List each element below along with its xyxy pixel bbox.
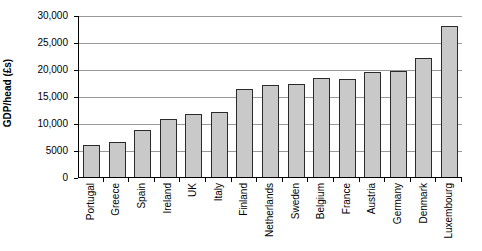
- x-tick-label-belgium: Belgium: [316, 183, 326, 219]
- x-label-cell: Ireland: [155, 183, 181, 249]
- bar-spain[interactable]: [134, 130, 151, 178]
- bar-slot: [385, 16, 411, 178]
- x-tick-mark: [78, 178, 104, 182]
- bar-slot: [258, 16, 284, 178]
- x-label-cell: UK: [180, 183, 206, 249]
- bar-netherlands[interactable]: [262, 85, 279, 178]
- bar-series: [79, 16, 462, 178]
- x-tick-mark: [411, 178, 437, 182]
- x-label-cell: Austria: [360, 183, 386, 249]
- plot-area: [78, 16, 462, 178]
- x-tick-label-austria: Austria: [367, 183, 377, 214]
- x-tick-mark: [232, 178, 258, 182]
- bar-slot: [283, 16, 309, 178]
- x-tick-label-spain: Spain: [137, 183, 147, 209]
- bar-slot: [334, 16, 360, 178]
- x-tick-mark: [129, 178, 155, 182]
- bar-slot: [181, 16, 207, 178]
- y-tick-label-20000: 20,000: [0, 65, 68, 75]
- x-label-cell: Netherlands: [257, 183, 283, 249]
- x-tick-label-ireland: Ireland: [163, 183, 173, 214]
- x-label-cell: Sweden: [283, 183, 309, 249]
- x-tick-label-finland: Finland: [239, 183, 249, 216]
- x-tick-mark: [334, 178, 360, 182]
- bar-slot: [156, 16, 182, 178]
- y-tick-label-5000: 5000: [0, 146, 68, 156]
- x-label-cell: Greece: [104, 183, 130, 249]
- bar-sweden[interactable]: [288, 84, 305, 178]
- x-label-cell: France: [334, 183, 360, 249]
- bar-denmark[interactable]: [415, 58, 432, 178]
- x-tick-label-portugal: Portugal: [86, 183, 96, 220]
- x-label-cell: Portugal: [78, 183, 104, 249]
- x-tick-label-italy: Italy: [214, 183, 224, 201]
- bar-luxembourg[interactable]: [441, 26, 458, 178]
- bar-slot: [130, 16, 156, 178]
- bar-greece[interactable]: [109, 142, 126, 178]
- bar-finland[interactable]: [236, 89, 253, 178]
- bar-uk[interactable]: [185, 114, 202, 178]
- bar-slot: [436, 16, 462, 178]
- bar-slot: [309, 16, 335, 178]
- bar-slot: [207, 16, 233, 178]
- bar-ireland[interactable]: [160, 119, 177, 178]
- x-label-cell: Germany: [385, 183, 411, 249]
- y-tick-label-15000: 15,000: [0, 92, 68, 102]
- bar-italy[interactable]: [211, 112, 228, 178]
- x-tick-mark: [436, 178, 462, 182]
- x-tick-label-sweden: Sweden: [291, 183, 301, 219]
- y-axis-tick-labels: 0500010,00015,00020,00025,00030,000: [0, 16, 74, 178]
- bar-belgium[interactable]: [313, 78, 330, 178]
- bar-slot: [411, 16, 437, 178]
- y-tick-label-0: 0: [0, 173, 68, 183]
- x-label-cell: Spain: [129, 183, 155, 249]
- x-tick-label-greece: Greece: [111, 183, 121, 216]
- x-axis-tick-marks: [78, 178, 462, 182]
- x-tick-mark: [283, 178, 309, 182]
- x-tick-label-denmark: Denmark: [419, 183, 429, 224]
- x-tick-label-uk: UK: [188, 183, 198, 197]
- x-label-cell: Denmark: [411, 183, 437, 249]
- bar-slot: [232, 16, 258, 178]
- x-tick-mark: [385, 178, 411, 182]
- bar-slot: [360, 16, 386, 178]
- x-tick-mark: [155, 178, 181, 182]
- x-tick-label-luxembourg: Luxembourg: [444, 183, 454, 239]
- x-label-cell: Belgium: [308, 183, 334, 249]
- x-label-cell: Finland: [232, 183, 258, 249]
- x-axis-category-labels: PortugalGreeceSpainIrelandUKItalyFinland…: [78, 183, 462, 249]
- y-tick-label-10000: 10,000: [0, 119, 68, 129]
- bar-slot: [79, 16, 105, 178]
- bar-germany[interactable]: [390, 71, 407, 178]
- x-tick-label-germany: Germany: [393, 183, 403, 224]
- x-tick-mark: [206, 178, 232, 182]
- bar-austria[interactable]: [364, 72, 381, 178]
- x-tick-mark: [360, 178, 386, 182]
- x-label-cell: Luxembourg: [436, 183, 462, 249]
- x-tick-mark: [180, 178, 206, 182]
- bar-slot: [105, 16, 131, 178]
- x-tick-mark: [308, 178, 334, 182]
- bar-portugal[interactable]: [83, 145, 100, 178]
- y-tick-label-25000: 25,000: [0, 38, 68, 48]
- y-tick-label-30000: 30,000: [0, 11, 68, 21]
- x-tick-label-netherlands: Netherlands: [265, 183, 275, 237]
- gdp-per-head-bar-chart: GDP/head (£s) 0500010,00015,00020,00025,…: [0, 0, 482, 251]
- x-tick-mark: [257, 178, 283, 182]
- bar-france[interactable]: [339, 79, 356, 178]
- x-tick-mark: [104, 178, 130, 182]
- x-tick-label-france: France: [342, 183, 352, 214]
- x-label-cell: Italy: [206, 183, 232, 249]
